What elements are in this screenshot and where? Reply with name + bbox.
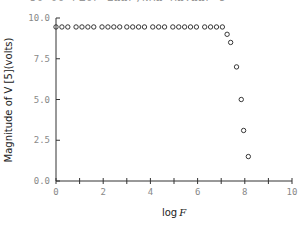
data-point xyxy=(142,25,146,29)
data-point xyxy=(74,25,78,29)
data-point xyxy=(100,25,104,29)
data-point xyxy=(60,25,64,29)
axes: 02468100.02.55.07.510.0 xyxy=(28,13,297,197)
data-point xyxy=(66,25,70,29)
x-tick-label: 8 xyxy=(242,187,247,197)
axis-labels: logFMagnitude of V [5](volts) xyxy=(3,37,187,218)
data-point xyxy=(241,128,245,132)
data-point xyxy=(92,25,96,29)
x-tick-label: 6 xyxy=(195,187,200,197)
data-point xyxy=(194,25,198,29)
x-axis-title: logF xyxy=(162,207,187,218)
x-tick-label: 10 xyxy=(287,187,298,197)
data-point xyxy=(246,154,250,158)
x-tick-label: 4 xyxy=(148,187,153,197)
data-point xyxy=(188,25,192,29)
data-point xyxy=(151,25,155,29)
x-tick-label: 0 xyxy=(53,187,58,197)
data-point xyxy=(125,25,129,29)
data-point xyxy=(228,40,232,44)
data-point xyxy=(202,25,206,29)
data-point xyxy=(118,25,122,29)
data-point xyxy=(220,25,224,29)
y-tick-label: 5.0 xyxy=(34,95,50,105)
data-point xyxy=(234,65,238,69)
y-tick-label: 7.5 xyxy=(34,54,50,64)
data-point xyxy=(225,32,229,36)
y-tick-label: 0.0 xyxy=(34,176,50,186)
data-point xyxy=(112,25,116,29)
data-point xyxy=(171,25,175,29)
data-point xyxy=(214,25,218,29)
data-point xyxy=(162,25,166,29)
data-point xyxy=(136,25,140,29)
data-points xyxy=(54,25,251,159)
data-point xyxy=(239,97,243,101)
data-point xyxy=(208,25,212,29)
data-point xyxy=(177,25,181,29)
scatter-chart: 02468100.02.55.07.510.0 logFMagnitude of… xyxy=(0,0,301,225)
data-point xyxy=(156,25,160,29)
data-point xyxy=(106,25,110,29)
data-point xyxy=(80,25,84,29)
y-axis-title: Magnitude of V [5](volts) xyxy=(3,37,14,162)
x-tick-label: 2 xyxy=(100,187,105,197)
data-point xyxy=(182,25,186,29)
data-point xyxy=(86,25,90,29)
data-point xyxy=(131,25,135,29)
y-tick-label: 10.0 xyxy=(28,13,50,23)
y-tick-label: 2.5 xyxy=(34,135,50,145)
